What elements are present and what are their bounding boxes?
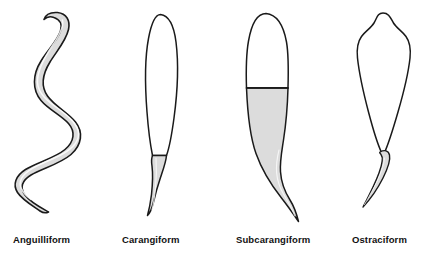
label-carangiform: Carangiform — [122, 234, 180, 245]
figure-canvas: Anguilliform Carangiform Subcarangiform … — [0, 0, 426, 261]
locomotion-figure: Anguilliform Carangiform Subcarangiform … — [0, 0, 426, 261]
label-ostraciform: Ostraciform — [352, 234, 407, 245]
label-anguilliform: Anguilliform — [13, 234, 70, 245]
label-subcarangiform: Subcarangiform — [236, 234, 310, 245]
